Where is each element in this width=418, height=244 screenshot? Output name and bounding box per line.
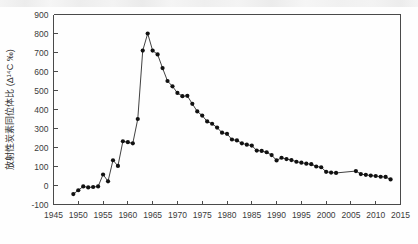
data-point-marker xyxy=(205,119,209,123)
x-tick-label: 1970 xyxy=(168,210,187,220)
y-tick-label: 700 xyxy=(34,48,48,58)
x-tick-label: 1965 xyxy=(143,210,162,220)
data-point-marker xyxy=(106,179,110,183)
data-point-marker xyxy=(334,171,338,175)
data-point-marker xyxy=(379,175,383,179)
x-tick-label: 1985 xyxy=(242,210,261,220)
data-point-marker xyxy=(190,102,194,106)
data-point-marker xyxy=(324,170,328,174)
y-tick-label: 400 xyxy=(34,105,48,115)
y-axis-title-text: 放射性炭素同位体比 (Δ¹⁴C ‰) xyxy=(4,49,15,169)
y-tick-label: -100 xyxy=(31,200,48,210)
data-point-marker xyxy=(230,137,234,141)
data-point-marker xyxy=(279,156,283,160)
data-point-marker xyxy=(284,157,288,161)
y-tick-label: 300 xyxy=(34,124,48,134)
data-point-marker xyxy=(96,184,100,188)
data-point-marker xyxy=(91,185,95,189)
data-point-marker xyxy=(265,150,269,154)
x-tick-label: 1975 xyxy=(193,210,212,220)
data-point-marker xyxy=(309,162,313,166)
x-tick-label: 1950 xyxy=(69,210,88,220)
data-point-marker xyxy=(294,160,298,164)
data-point-marker xyxy=(146,31,150,35)
y-tick-label: 600 xyxy=(34,67,48,77)
data-point-marker xyxy=(116,164,120,168)
data-point-marker xyxy=(260,149,264,153)
data-point-marker xyxy=(225,132,229,136)
data-point-marker xyxy=(364,173,368,177)
data-point-marker xyxy=(289,158,293,162)
data-point-marker xyxy=(180,94,184,98)
y-tick-label: 0 xyxy=(44,181,49,191)
data-point-marker xyxy=(101,172,105,176)
y-tick-label: 500 xyxy=(34,86,48,96)
data-point-marker xyxy=(160,66,164,70)
x-tick-label: 2005 xyxy=(341,210,360,220)
data-point-marker xyxy=(369,174,373,178)
y-tick-label: 200 xyxy=(34,143,48,153)
series-gap-connector xyxy=(336,171,356,173)
y-tick-label: 100 xyxy=(34,162,48,172)
x-tick-label: 1990 xyxy=(267,210,286,220)
data-point-marker xyxy=(175,91,179,95)
data-point-marker xyxy=(270,153,274,157)
x-tick-label: 1995 xyxy=(292,210,311,220)
data-point-marker xyxy=(141,49,145,53)
data-point-marker xyxy=(354,169,358,173)
axis-frame xyxy=(54,15,401,205)
x-tick-label: 2015 xyxy=(391,210,410,220)
data-point-marker xyxy=(235,138,239,142)
data-point-marker xyxy=(200,113,204,117)
y-axis-title: 放射性炭素同位体比 (Δ¹⁴C ‰) xyxy=(4,49,15,169)
x-tick-label: 2010 xyxy=(366,210,385,220)
data-point-marker xyxy=(384,175,388,179)
data-point-marker xyxy=(86,185,90,189)
data-point-marker xyxy=(111,158,115,162)
data-point-marker xyxy=(165,79,169,83)
data-point-marker xyxy=(185,94,189,98)
data-series-radiocarbon xyxy=(71,31,392,196)
data-point-marker xyxy=(299,161,303,165)
x-tick-label: 1960 xyxy=(118,210,137,220)
data-point-marker xyxy=(81,184,85,188)
radiocarbon-bomb-curve-figure: -1000100200300400500600700800900 1945195… xyxy=(0,0,418,244)
data-point-marker xyxy=(170,84,174,88)
data-point-marker xyxy=(151,49,155,53)
data-point-marker xyxy=(126,140,130,144)
data-point-marker xyxy=(215,125,219,129)
y-tick-label: 900 xyxy=(34,10,48,20)
data-point-marker xyxy=(255,148,259,152)
data-point-marker xyxy=(240,141,244,145)
data-point-marker xyxy=(136,117,140,121)
data-point-marker xyxy=(195,109,199,113)
data-point-marker xyxy=(329,170,333,174)
data-point-marker xyxy=(131,141,135,145)
data-point-marker xyxy=(156,52,160,56)
chart-plot-area: -1000100200300400500600700800900 1945195… xyxy=(0,0,418,244)
data-point-marker xyxy=(250,144,254,148)
data-point-marker xyxy=(374,174,378,178)
data-point-marker xyxy=(274,158,278,162)
x-tick-label: 1945 xyxy=(44,210,63,220)
data-point-marker xyxy=(71,192,75,196)
data-point-marker xyxy=(220,131,224,135)
x-tick-label: 1980 xyxy=(218,210,237,220)
x-tick-label: 1955 xyxy=(94,210,113,220)
data-point-marker xyxy=(388,177,392,181)
data-point-marker xyxy=(210,122,214,126)
y-tick-label: 800 xyxy=(34,29,48,39)
x-tick-label: 2000 xyxy=(317,210,336,220)
data-point-marker xyxy=(121,139,125,143)
x-axis-ticks: 1945195019551960196519701975198019851990… xyxy=(44,201,410,220)
data-point-marker xyxy=(245,143,249,147)
data-point-marker xyxy=(319,165,323,169)
data-point-marker xyxy=(76,188,80,192)
series-polyline xyxy=(73,34,336,195)
data-point-marker xyxy=(304,162,308,166)
data-point-marker xyxy=(314,164,318,168)
data-point-marker xyxy=(359,172,363,176)
